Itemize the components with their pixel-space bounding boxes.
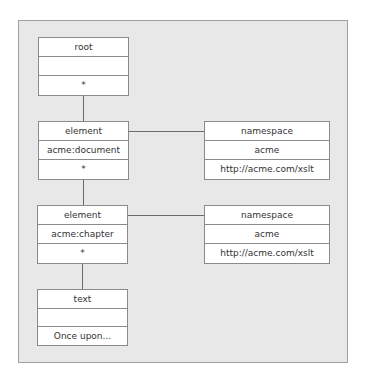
node-name xyxy=(39,57,128,76)
node-name: acme xyxy=(205,141,329,160)
node-name: acme:chapter xyxy=(38,225,127,244)
node-name xyxy=(38,309,127,327)
node-type: namespace xyxy=(205,206,329,225)
node-value: http://acme.com/xslt xyxy=(205,160,329,179)
namespace-node-2: namespace acme http://acme.com/xslt xyxy=(204,205,330,264)
element-document-node: element acme:document * xyxy=(38,121,129,180)
node-value: * xyxy=(39,160,128,179)
node-type: element xyxy=(38,206,127,225)
node-name: acme xyxy=(205,225,329,244)
element-chapter-node: element acme:chapter * xyxy=(37,205,128,264)
edge-document-namespace xyxy=(128,131,204,132)
edge-root-document xyxy=(83,96,84,121)
node-type: root xyxy=(39,38,128,57)
node-type: namespace xyxy=(205,122,329,141)
namespace-node-1: namespace acme http://acme.com/xslt xyxy=(204,121,330,180)
node-name: acme:document xyxy=(39,141,128,160)
edge-document-chapter xyxy=(83,180,84,205)
node-type: element xyxy=(39,122,128,141)
text-node: text Once upon... xyxy=(37,289,128,346)
root-node: root * xyxy=(38,37,129,96)
edge-chapter-text xyxy=(82,264,83,289)
node-type: text xyxy=(38,290,127,309)
node-value: http://acme.com/xslt xyxy=(205,244,329,263)
node-value: * xyxy=(39,76,128,95)
edge-chapter-namespace xyxy=(128,215,204,216)
node-value: * xyxy=(38,244,127,263)
node-value: Once upon... xyxy=(38,327,127,346)
